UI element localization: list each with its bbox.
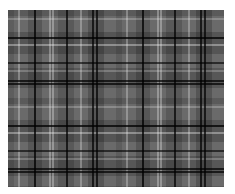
plaid-pattern xyxy=(8,10,224,187)
